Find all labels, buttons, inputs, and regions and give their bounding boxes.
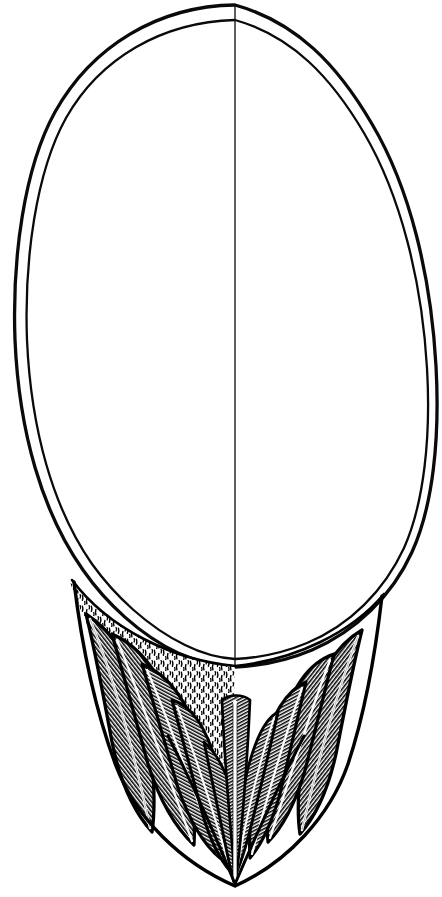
bird-body-feather-drawing: [0, 0, 442, 897]
illustration-canvas: Bird body and tail feather study Ink dra…: [0, 0, 442, 897]
